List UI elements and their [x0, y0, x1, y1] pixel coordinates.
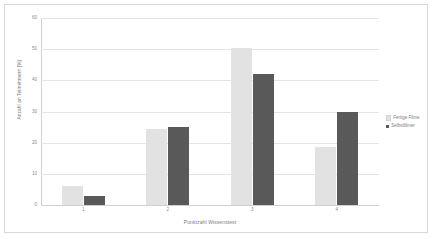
y-axis-tick-label: 0 [11, 203, 37, 208]
bar[interactable] [253, 74, 274, 205]
bar-group [315, 18, 358, 205]
bar[interactable] [337, 112, 358, 206]
bar[interactable] [231, 48, 252, 205]
chart-legend: Fertige FilmeSelbstfilmer [386, 115, 432, 132]
bar-group [146, 18, 189, 205]
y-axis-tick-label: 40 [11, 78, 37, 83]
legend-swatch-icon [386, 125, 389, 128]
x-axis-tick-label: 2 [153, 208, 183, 213]
y-axis-tick-label: 30 [11, 110, 37, 115]
legend-swatch-icon [386, 115, 391, 120]
legend-item[interactable]: Selbstfilmer [386, 124, 432, 130]
bar-group [62, 18, 105, 205]
x-axis-tick-label: 4 [322, 208, 352, 213]
plot-area [41, 18, 379, 205]
x-axis-title: Punktzahl Wissenstest [41, 219, 379, 225]
legend-label: Selbstfilmer [391, 124, 415, 129]
legend-label: Fertige Filme [393, 116, 419, 121]
bar[interactable] [84, 196, 105, 205]
bar[interactable] [146, 129, 167, 205]
bar[interactable] [168, 127, 189, 205]
x-axis-tick-label: 1 [68, 208, 98, 213]
y-axis-tick-label: 60 [11, 16, 37, 21]
y-axis-tick-label: 50 [11, 47, 37, 52]
legend-item[interactable]: Fertige Filme [386, 115, 432, 121]
chart-container: Anzahl an Teilnehmern [%] 0102030405060 … [4, 4, 428, 233]
x-axis-tick-labels: 1234 [41, 208, 379, 216]
bar[interactable] [62, 186, 83, 205]
x-axis-tick-label: 3 [237, 208, 267, 213]
y-axis-tick-label: 20 [11, 141, 37, 146]
bars-layer [41, 18, 379, 205]
y-axis-tick-label: 10 [11, 172, 37, 177]
bar[interactable] [315, 147, 336, 205]
gridline [41, 205, 379, 206]
bar-group [231, 18, 274, 205]
